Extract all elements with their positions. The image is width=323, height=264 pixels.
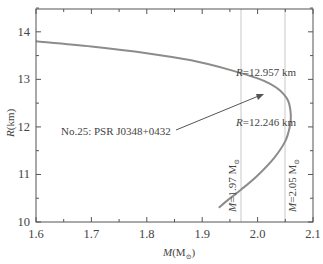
mass-line-label-1-97: M=1.97 M⊙ (226, 159, 241, 213)
radius-label-max-mass: R=12.246 km (235, 116, 296, 128)
x-tick-label: 1.6 (28, 227, 44, 241)
x-tick-label: 1.7 (84, 227, 100, 241)
pulsar-label: No.25: PSR J0348+0432 (61, 125, 171, 137)
x-axis-title: M(M⊙) (162, 246, 196, 261)
y-tick-label: 10 (18, 215, 31, 229)
mass-radius-chart: 1.61.71.81.92.02.1 1011121314 R=12.957 k… (0, 0, 323, 264)
x-tick-label: 1.8 (139, 227, 155, 241)
x-tick-label: 2.0 (250, 227, 266, 241)
x-tick-label: 2.1 (305, 227, 321, 241)
radius-label-max: R=12.957 km (235, 66, 296, 78)
mass-line-label-2-05: M=2.05 M⊙ (286, 159, 301, 213)
x-tick-label: 1.9 (194, 227, 210, 241)
y-tick-label: 14 (18, 25, 31, 39)
x-axis-tick-labels: 1.61.71.81.92.02.1 (28, 227, 321, 241)
y-tick-label: 11 (18, 167, 30, 181)
y-tick-label: 12 (18, 120, 31, 134)
y-axis-title: R(km) (4, 109, 17, 138)
arrow-head-icon (256, 94, 264, 100)
y-tick-label: 13 (18, 72, 31, 86)
y-axis-tick-labels: 1011121314 (18, 25, 31, 229)
